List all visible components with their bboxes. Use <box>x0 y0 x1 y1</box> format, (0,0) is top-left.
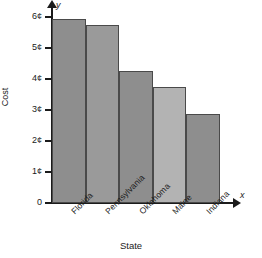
y-tick-4 <box>45 78 52 80</box>
y-tick-label-3: 3¢ <box>18 105 42 114</box>
x-axis-title: State <box>0 240 262 251</box>
bar-indiana[interactable] <box>186 114 220 203</box>
y-tick-label-5: 5¢ <box>18 43 42 52</box>
y-tick-6 <box>45 16 52 18</box>
bar-chart: y x 0 1¢ 2¢ 3¢ 4¢ 5¢ 6¢ Florida Pennsylv… <box>0 0 262 258</box>
y-axis-variable-label: y <box>56 0 61 10</box>
y-tick-2 <box>45 140 52 142</box>
y-tick-0 <box>45 202 52 204</box>
y-tick-1 <box>45 171 52 173</box>
y-tick-3 <box>45 109 52 111</box>
bar-florida[interactable] <box>52 19 86 203</box>
y-tick-label-0: 0 <box>18 198 42 207</box>
y-tick-5 <box>45 47 52 49</box>
bar-pennsylvania[interactable] <box>86 25 120 203</box>
y-tick-label-2: 2¢ <box>18 136 42 145</box>
y-tick-label-4: 4¢ <box>18 74 42 83</box>
y-tick-label-1: 1¢ <box>18 167 42 176</box>
y-axis-title: Cost <box>0 88 10 107</box>
y-tick-label-6: 6¢ <box>18 12 42 21</box>
x-axis-variable-label: x <box>240 190 245 200</box>
